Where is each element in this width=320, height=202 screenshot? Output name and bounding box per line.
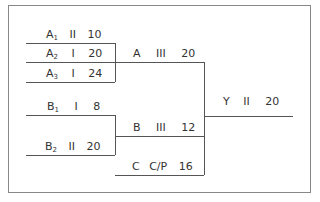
b-line [115, 136, 204, 137]
node-a1: A1 II 10 [46, 29, 102, 44]
node-a2: A2 I 20 [46, 48, 102, 63]
a-group-bracket [115, 43, 116, 82]
y-bracket [204, 62, 205, 175]
node-y: Y II 20 [223, 96, 279, 108]
b-group-bracket [115, 115, 116, 155]
node-b1: B1 I 8 [47, 101, 100, 116]
node-a3: A3 I 24 [46, 68, 102, 83]
c-line [115, 175, 204, 176]
node-b: B III 12 [133, 122, 195, 134]
node-a: A III 20 [133, 48, 195, 60]
node-c: C C/P 16 [132, 161, 193, 173]
y-line [204, 116, 293, 117]
node-b2: B2 II 20 [45, 141, 101, 156]
